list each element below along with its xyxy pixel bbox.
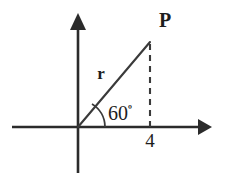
angle-value: 60	[108, 102, 128, 124]
polar-coordinate-diagram: P r 60º 4	[0, 0, 226, 177]
x-intercept-label: 4	[145, 130, 155, 151]
point-p-label: P	[159, 9, 171, 31]
y-axis-arrow-icon	[70, 13, 86, 30]
x-axis-arrow-icon	[198, 119, 212, 135]
degree-symbol-icon: º	[128, 102, 132, 116]
radius-label: r	[97, 64, 105, 83]
angle-label: 60º	[108, 102, 132, 124]
diagram-canvas: P r 60º 4	[0, 0, 226, 177]
